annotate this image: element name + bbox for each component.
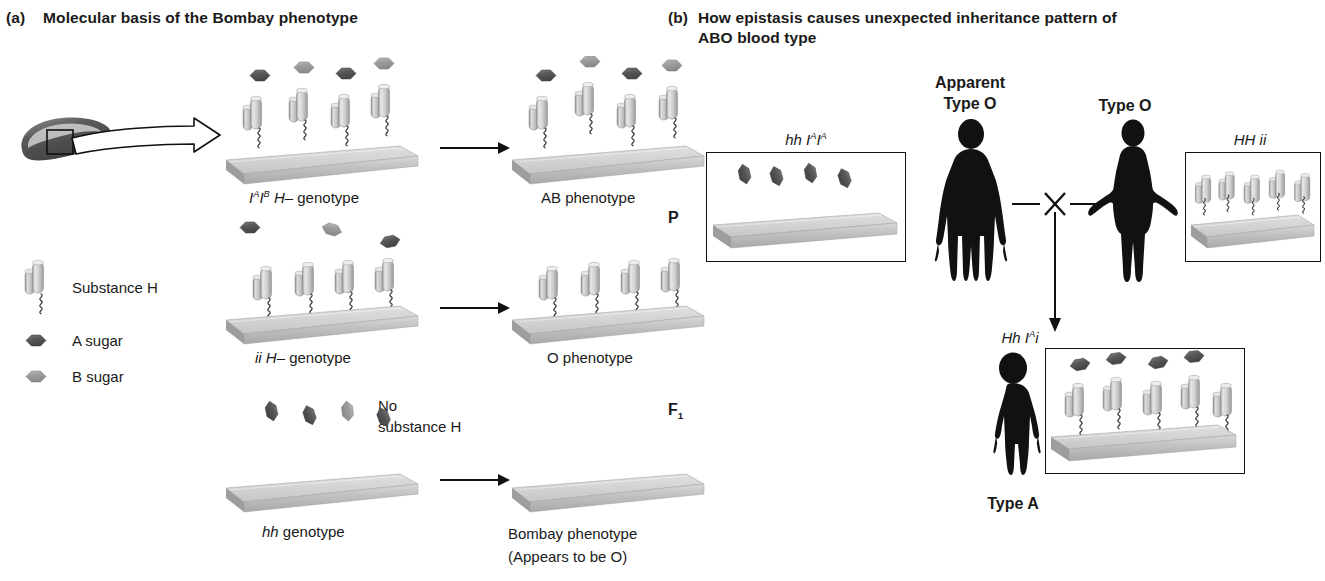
phenotype-caption-parent-left-line1: Apparent bbox=[880, 72, 1060, 93]
free-sugars-parent-left bbox=[737, 162, 853, 189]
legend-label-b-sugar: B sugar bbox=[72, 367, 124, 386]
membrane-slab-row2-left bbox=[226, 306, 418, 344]
surface-molecules-row1-right bbox=[529, 56, 682, 148]
male-silhouette-icon bbox=[925, 118, 1017, 288]
genotype-label-row1: IAIB H– genotype bbox=[249, 188, 359, 207]
generation-label-p: P bbox=[668, 208, 679, 227]
membrane-parent-right bbox=[1186, 153, 1319, 260]
phenotype-caption-parent-right: Type O bbox=[1050, 95, 1200, 116]
membrane-slab-parent-left bbox=[713, 213, 897, 248]
membrane-slab-row1-right bbox=[512, 146, 704, 184]
surface-molecules-offspring bbox=[1065, 350, 1232, 435]
panel-a-tag: (a) bbox=[6, 8, 25, 28]
cylinder-pair-icon bbox=[16, 256, 64, 320]
membrane-parent-left bbox=[707, 153, 904, 260]
legend-label-substance-h: Substance H bbox=[72, 278, 158, 297]
genotype-label-offspring: Hh IAi bbox=[940, 328, 1100, 347]
membrane-slab-parent-right bbox=[1191, 215, 1314, 248]
legend-label-a-sugar: A sugar bbox=[72, 331, 123, 350]
phenotype-label-offspring: Type A bbox=[933, 494, 1093, 513]
arrow-row3 bbox=[440, 472, 512, 488]
free-sugars-row3-left bbox=[264, 400, 392, 428]
phenotype-label-row2: O phenotype bbox=[547, 348, 633, 367]
dark-hexagon-icon bbox=[16, 332, 64, 352]
panel-b-title-line1: How epistasis causes unexpected inherita… bbox=[698, 9, 1117, 26]
membrane-slab-row3-right bbox=[512, 474, 704, 512]
panel-b-tag: (b) bbox=[668, 8, 698, 48]
female-silhouette-icon bbox=[1085, 118, 1181, 288]
membrane-slab-row1-left bbox=[226, 146, 418, 184]
membrane-offspring bbox=[1046, 349, 1243, 472]
panel-b-heading: (b) How epistasis causes unexpected inhe… bbox=[668, 8, 1298, 48]
membrane-row1-left bbox=[222, 56, 422, 186]
phenotype-caption-parent-left-line2: Type O bbox=[880, 93, 1060, 114]
membrane-row1-right bbox=[508, 56, 708, 186]
free-sugars-row2-left bbox=[240, 221, 401, 249]
phenotype-label-row3-main: Bombay phenotype bbox=[508, 522, 637, 545]
generation-label-f1: F1 bbox=[668, 400, 683, 419]
phenotype-caption-parent-right-line2: Type O bbox=[1050, 95, 1200, 116]
membrane-box-parent-left bbox=[706, 152, 906, 262]
genotype-label-row3: hh genotype bbox=[262, 522, 345, 541]
genotype-label-parent-left: hh IAIA bbox=[706, 130, 906, 149]
phenotype-caption-parent-left: Apparent Type O bbox=[880, 72, 1060, 114]
genotype-label-row2: ii H– genotype bbox=[255, 348, 351, 367]
panel-b-title-line2: ABO blood type bbox=[698, 29, 817, 46]
membrane-row2-left bbox=[222, 218, 422, 346]
arrow-row2 bbox=[440, 300, 512, 316]
membrane-row2-right bbox=[508, 218, 708, 346]
membrane-slab-offspring bbox=[1051, 425, 1236, 461]
surface-molecules-row1-left bbox=[243, 58, 394, 148]
arrow-down-icon bbox=[1046, 212, 1064, 332]
membrane-row3-left bbox=[222, 396, 422, 516]
arrow-row1 bbox=[440, 140, 512, 156]
membrane-slab-row3-left bbox=[226, 474, 418, 512]
red-blood-cell-callout bbox=[14, 104, 244, 184]
phenotype-label-row3-sub: (Appears to be O) bbox=[508, 545, 637, 568]
membrane-box-parent-right bbox=[1185, 152, 1321, 262]
phenotype-label-row1: AB phenotype bbox=[541, 188, 635, 207]
membrane-slab-row2-right bbox=[512, 306, 704, 344]
panel-a-heading: (a) Molecular basis of the Bombay phenot… bbox=[6, 8, 358, 28]
surface-molecules-parent-right bbox=[1195, 170, 1310, 215]
membrane-box-offspring bbox=[1045, 348, 1245, 474]
light-hexagon-icon bbox=[16, 368, 64, 388]
phenotype-label-row3: Bombay phenotype (Appears to be O) bbox=[508, 522, 637, 568]
panel-a-title: Molecular basis of the Bombay phenotype bbox=[43, 9, 358, 26]
genotype-label-parent-right: HH ii bbox=[1175, 130, 1325, 149]
child-silhouette-icon bbox=[975, 352, 1051, 490]
figure-canvas: (a) Molecular basis of the Bombay phenot… bbox=[0, 0, 1325, 581]
